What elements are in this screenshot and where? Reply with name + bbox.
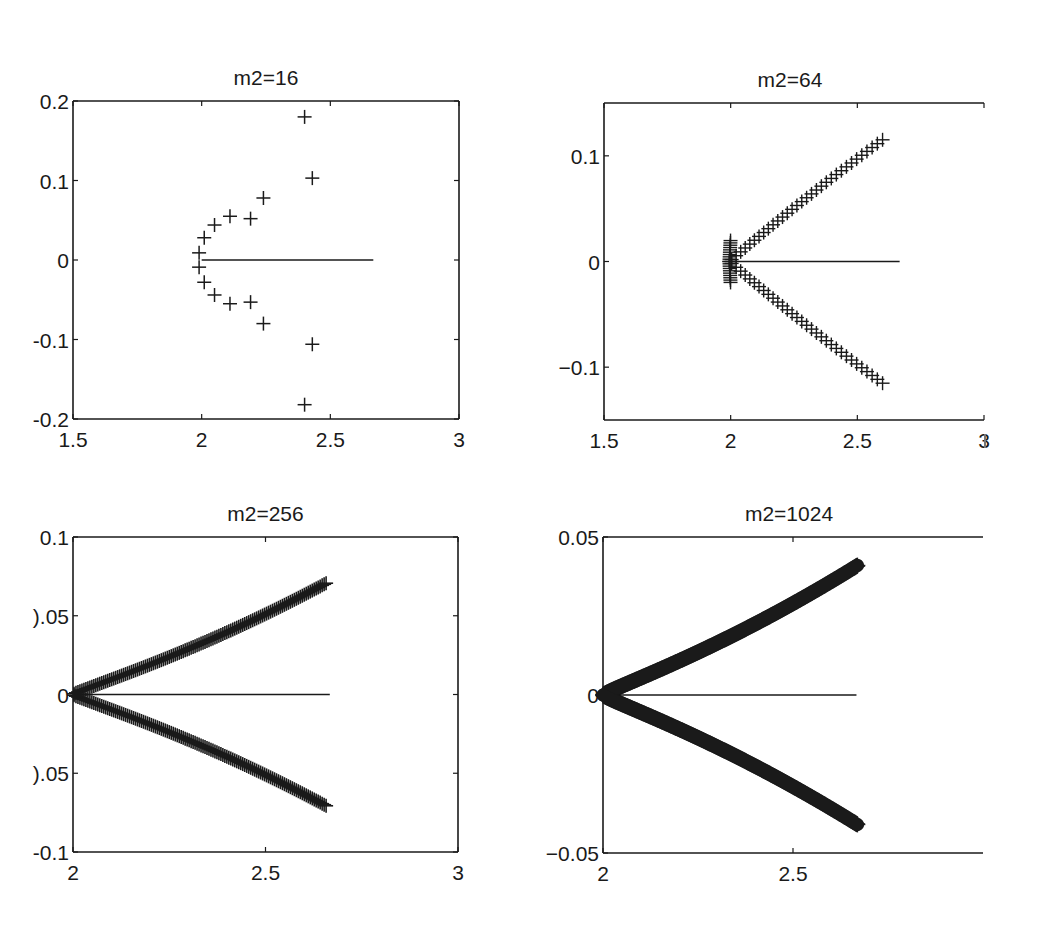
x-tick-label: 1.5 <box>589 429 618 452</box>
y-tick-label: -0.2 <box>33 408 69 431</box>
x-tick-label: 2.5 <box>778 862 807 885</box>
y-tick-label: 0.1 <box>40 170 69 193</box>
x-tick-label: 2 <box>597 862 609 885</box>
y-tick-label: −0.1 <box>559 356 600 379</box>
y-tick-label: 0.1 <box>571 145 600 168</box>
subplot-m2-256: m2=256 22.530.1).050).05-0.1 <box>33 502 464 884</box>
y-axis-ticks: 0.10−0.1 <box>559 145 609 379</box>
x-tick-label: 3 <box>452 861 464 884</box>
plot-area <box>722 133 899 390</box>
x-tick-label: 2 <box>196 428 208 451</box>
x-tick-label: 2.5 <box>251 861 280 884</box>
x-axis-ticks: 1.522.53 <box>589 103 989 452</box>
figure-canvas: m2=16 1.522.530.20.10-0.1-0.2 m2=64 1.52… <box>0 0 1038 934</box>
x-tick-label: 2 <box>725 429 737 452</box>
x-axis-ticks: 1.522.53 <box>58 101 464 451</box>
plot-area <box>595 558 865 833</box>
plot-area <box>67 576 333 813</box>
subplot-m2-16: m2=16 1.522.530.20.10-0.1-0.2 <box>33 66 465 451</box>
x-tick-label: 2.5 <box>843 429 872 452</box>
y-tick-label: ).05 <box>33 762 69 785</box>
x-tick-label: 2 <box>67 861 79 884</box>
x-tick-label: 2.5 <box>316 428 345 451</box>
y-tick-label: 0.05 <box>558 526 599 549</box>
y-tick-label: −0.05 <box>546 842 599 865</box>
subplot-title: m2=16 <box>234 66 299 89</box>
subplot-title: m2=256 <box>227 502 303 525</box>
subplot-title: m2=64 <box>758 68 823 91</box>
y-tick-label: -0.1 <box>33 841 69 864</box>
plot-area <box>192 110 373 412</box>
subplot-m2-64: m2=64 1.522.530.10−0.1 <box>559 68 990 452</box>
y-tick-label: 0.2 <box>40 90 69 113</box>
x-tick-label: 3 <box>453 428 465 451</box>
y-tick-label: 0 <box>588 251 600 274</box>
subplot-m2-1024: m2=1024 22.50.050−0.05 <box>546 502 983 885</box>
x-axis-ticks: 22.53 <box>67 537 464 884</box>
y-tick-label: 0 <box>57 249 69 272</box>
y-tick-label: -0.1 <box>33 329 69 352</box>
x-tick-label: 1.5 <box>58 428 87 451</box>
y-tick-label: ).05 <box>33 605 69 628</box>
y-tick-label: 0.1 <box>40 526 69 549</box>
subplot-title: m2=1024 <box>745 502 833 525</box>
